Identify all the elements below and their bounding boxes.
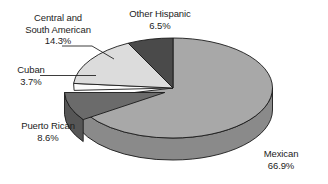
slice-label-puerto-rican-name: Puerto Rican bbox=[2, 120, 94, 132]
slice-label-puerto-rican: Puerto Rican 8.6% bbox=[2, 120, 94, 143]
slice-label-cuban: Cuban 3.7% bbox=[2, 64, 60, 87]
slice-value-cuban: 3.7% bbox=[2, 76, 60, 88]
slice-label-central-south-american: Central and South American 14.3% bbox=[6, 12, 110, 47]
slice-value-central-south-american: 14.3% bbox=[6, 35, 110, 47]
slice-label-other-hispanic-name: Other Hispanic bbox=[112, 8, 208, 20]
slice-value-mexican: 66.9% bbox=[238, 160, 324, 172]
slice-value-other-hispanic: 6.5% bbox=[112, 20, 208, 32]
slice-label-cuban-name: Cuban bbox=[2, 64, 60, 76]
slice-value-puerto-rican: 8.6% bbox=[2, 132, 94, 144]
slice-label-central-south-american-line2: South American bbox=[6, 24, 110, 36]
slice-label-mexican: Mexican 66.9% bbox=[238, 148, 324, 171]
slice-label-central-south-american-line1: Central and bbox=[6, 12, 110, 24]
slice-label-other-hispanic: Other Hispanic 6.5% bbox=[112, 8, 208, 31]
pie-chart-figure: Central and South American 14.3% Other H… bbox=[0, 0, 328, 184]
slice-label-mexican-name: Mexican bbox=[238, 148, 324, 160]
